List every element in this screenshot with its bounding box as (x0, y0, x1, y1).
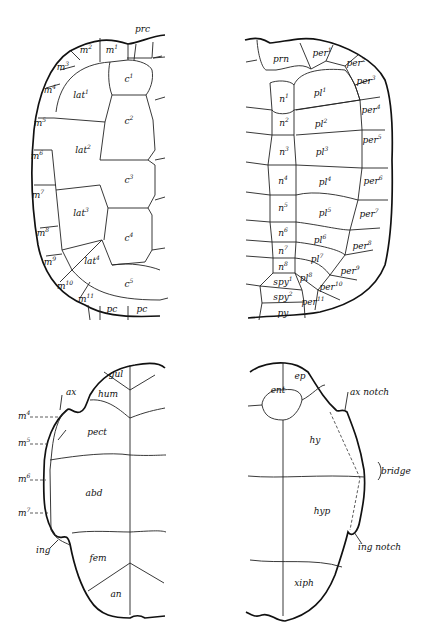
label-base: spy (273, 292, 288, 302)
label-superscript: 4 (130, 231, 134, 238)
scute-label-n-5: n5 (278, 202, 288, 213)
label-superscript: 6 (322, 233, 326, 240)
scute-label-per-8: per8 (352, 240, 371, 251)
scute-label-m-3: m3 (57, 61, 69, 72)
label-superscript: 6 (39, 149, 43, 156)
scute-label-m-5: m5 (18, 437, 30, 448)
label-superscript: 4 (52, 83, 56, 90)
label-base: prc (135, 24, 150, 34)
label-base: pl (315, 119, 324, 129)
scute-label-pect: pect (87, 428, 107, 437)
scute-label-bridge: bridge (381, 467, 411, 476)
label-superscript: 9 (356, 264, 360, 271)
label-base: ing (36, 545, 50, 555)
label-superscript: 2 (130, 114, 134, 121)
label-base: per (319, 282, 334, 292)
scute-label-per-9: per9 (340, 265, 359, 276)
label-base: per (346, 58, 361, 68)
label-superscript: 7 (284, 244, 288, 251)
label-base: per (363, 176, 378, 186)
scute-label-pl-6: pl6 (314, 234, 326, 245)
scute-label-m-7: m7 (32, 189, 44, 200)
scute-label-m-1: m1 (106, 44, 118, 55)
label-base: m (32, 190, 41, 200)
label-base: spy (273, 277, 288, 287)
label-superscript: 1 (285, 92, 289, 99)
scute-label-m-8: m8 (37, 227, 49, 238)
label-superscript: 7 (319, 252, 323, 259)
label-superscript: 7 (375, 207, 379, 214)
label-base: lat (75, 145, 87, 155)
scute-label-per-7: per7 (359, 208, 378, 219)
label-base: hy (310, 435, 321, 445)
label-superscript: 5 (327, 206, 331, 213)
scute-label-lat-4: lat4 (84, 255, 100, 266)
scute-label-ing-notch: ing notch (358, 543, 401, 552)
label-superscript: 2 (289, 290, 293, 297)
scute-label-m-6: m6 (18, 473, 30, 484)
label-base: lat (84, 256, 96, 266)
label-superscript: 5 (27, 436, 31, 443)
scute-label-pl-4: pl4 (319, 176, 331, 187)
scute-label-c-3: c3 (125, 174, 134, 185)
scute-label-lat-1: lat1 (73, 89, 89, 100)
label-base: ing notch (358, 542, 401, 552)
label-superscript: 5 (378, 133, 382, 140)
label-superscript: 7 (27, 506, 31, 513)
label-superscript: 3 (372, 74, 376, 81)
label-base: per (359, 209, 374, 219)
scute-label-m-7: m7 (18, 507, 30, 518)
label-base: m (44, 85, 53, 95)
label-superscript: 5 (284, 201, 288, 208)
scute-label-per-5: per5 (362, 134, 381, 145)
label-superscript: 2 (87, 143, 91, 150)
scute-label-prc: prc (135, 25, 150, 34)
label-base: pl (319, 208, 328, 218)
scute-label-c-2: c2 (125, 115, 134, 126)
scute-label-ax-notch: ax notch (350, 388, 389, 397)
label-base: m (37, 228, 46, 238)
label-base: ax notch (350, 387, 389, 397)
scute-label-c-1: c1 (125, 73, 134, 84)
scute-label-ent: ent (271, 386, 286, 395)
scute-label-lat-2: lat2 (75, 144, 91, 155)
scute-label-n-8: n8 (278, 261, 288, 272)
scute-label-m-9: m9 (44, 256, 56, 267)
label-superscript: 4 (27, 409, 31, 416)
scute-label-hy: hy (310, 436, 321, 445)
scute-label-hyp: hyp (314, 507, 331, 516)
label-superscript: 11 (317, 295, 325, 302)
label-superscript: 5 (130, 277, 134, 284)
label-base: abd (86, 488, 103, 498)
label-base: per (340, 266, 355, 276)
label-base: pl (314, 235, 323, 245)
scute-label-per-10: per10 (319, 281, 342, 292)
label-superscript: 8 (45, 226, 49, 233)
label-base: per (362, 135, 377, 145)
scute-label-m-11: m11 (78, 293, 94, 304)
label-superscript: 2 (88, 43, 92, 50)
label-base: ent (271, 385, 286, 395)
label-base: pl (311, 254, 320, 264)
label-superscript: 9 (52, 255, 56, 262)
label-base: pl (319, 177, 328, 187)
label-superscript: 4 (96, 254, 100, 261)
label-base: m (57, 281, 66, 291)
scute-label-pl-5: pl5 (319, 207, 331, 218)
scute-label-gul: gul (109, 370, 123, 379)
scute-label-m-5: m5 (34, 117, 46, 128)
scute-label-c-4: c4 (125, 232, 134, 243)
scute-label-pl-1: pl1 (314, 87, 326, 98)
label-base: per (312, 48, 327, 58)
scute-label-fem: fem (89, 554, 106, 563)
label-superscript: 5 (42, 116, 46, 123)
scute-label-per-4: per4 (361, 104, 380, 115)
label-superscript: 2 (285, 116, 289, 123)
scute-label-prn: prn (273, 55, 289, 64)
scute-label-ing: ing (36, 546, 50, 555)
label-base: pc (107, 304, 118, 314)
label-base: per (352, 241, 367, 251)
label-superscript: 6 (379, 174, 383, 181)
label-superscript: 6 (27, 472, 31, 479)
scute-label-spy-2: spy2 (273, 291, 292, 302)
